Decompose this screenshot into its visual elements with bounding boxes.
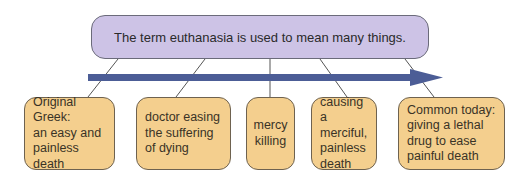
box-text: drug to ease — [407, 134, 495, 150]
box-text: an easy and — [33, 126, 106, 142]
box-text: death — [320, 157, 368, 173]
timeline-arrow — [88, 69, 443, 86]
definition-box-doctor: doctor easingthe sufferingof dying — [136, 97, 231, 170]
definition-box-merciful: causing amerciful,painlessdeath — [311, 97, 377, 170]
box-text: painless death — [33, 141, 106, 172]
box-text: the suffering — [145, 126, 220, 142]
box-text: Common today: — [407, 103, 495, 119]
box-text: causing a — [320, 95, 368, 126]
box-text: doctor easing — [145, 110, 220, 126]
box-text: Original Greek: — [33, 95, 106, 126]
definition-box-mercy: mercykilling — [246, 97, 295, 170]
box-text: merciful, — [320, 126, 368, 142]
definition-box-greek: Original Greek:an easy andpainless death — [24, 97, 115, 170]
box-text: painful death — [407, 149, 495, 165]
title-box: The term euthanasia is used to mean many… — [91, 15, 429, 59]
box-text: giving a lethal — [407, 118, 495, 134]
definition-box-common-today: Common today:giving a lethaldrug to ease… — [398, 97, 505, 170]
box-text: of dying — [145, 141, 220, 157]
box-text: painless — [320, 141, 368, 157]
box-text: killing — [253, 134, 287, 150]
box-text: mercy — [253, 118, 287, 134]
title-text: The term euthanasia is used to mean many… — [114, 30, 406, 45]
